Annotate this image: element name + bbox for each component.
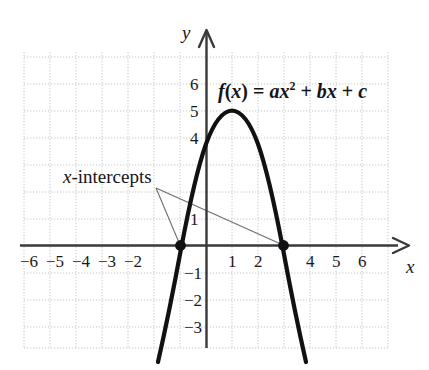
formula-bx-var: x <box>327 80 337 102</box>
formula-plus-2: + <box>342 80 353 102</box>
y-tick-label--2: −2 <box>184 292 202 309</box>
x-tick-label-4: 4 <box>306 253 315 270</box>
formula-equals: = <box>253 80 264 102</box>
y-axis-label: y <box>182 23 190 42</box>
y-tick-label--3: −3 <box>184 319 202 336</box>
leader-line-left <box>156 188 180 245</box>
x-tick-label-1: 1 <box>228 253 237 270</box>
x-intercepts-annotation: x-intercepts <box>63 167 152 186</box>
x-axis-label: x <box>406 257 414 276</box>
y-tick-label-6: 6 <box>190 76 199 93</box>
formula-x-squared-exponent: 2 <box>289 79 295 93</box>
right-x-intercept-point <box>278 240 289 251</box>
x-tick-label-6: 6 <box>358 253 367 270</box>
left-x-intercept-point <box>175 240 186 251</box>
leader-lines <box>156 188 283 245</box>
formula-arg: x <box>231 80 241 102</box>
function-formula: f(x) = ax2 + bx + c <box>218 80 367 101</box>
parabola-figure: y x −6 −5 −4 −3 −2 1 2 4 5 6 6 5 4 1 −1 … <box>0 0 429 370</box>
y-tick-label-1: 1 <box>190 211 199 228</box>
x-tick-label-5: 5 <box>332 253 341 270</box>
x-tick-label--6: −6 <box>20 253 38 270</box>
x-tick-label-2: 2 <box>254 253 263 270</box>
y-tick-label-5: 5 <box>190 103 199 120</box>
formula-fn: f <box>218 80 225 102</box>
formula-coef-b: b <box>317 80 327 102</box>
x-tick-label--4: −4 <box>72 253 90 270</box>
x-tick-label--2: −2 <box>124 253 142 270</box>
x-axis <box>20 238 409 253</box>
formula-paren-close: ) <box>241 80 248 102</box>
formula-x-squared-base: x <box>279 80 289 102</box>
formula-plus-1: + <box>300 80 311 102</box>
x-tick-label--5: −5 <box>46 253 64 270</box>
formula-coef-a: a <box>269 80 279 102</box>
y-tick-label-4: 4 <box>190 130 199 147</box>
formula-const-c: c <box>358 80 367 102</box>
y-tick-label--1: −1 <box>184 265 202 282</box>
leader-line-right <box>156 188 283 245</box>
x-tick-label--3: −3 <box>98 253 116 270</box>
x-intercepts-annotation-text: -intercepts <box>71 166 151 187</box>
